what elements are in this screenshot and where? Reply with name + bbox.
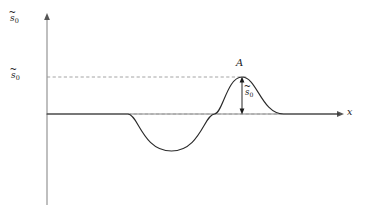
y-axis-arrowhead <box>44 13 50 20</box>
point-a-label: A <box>236 58 243 68</box>
y-axis-label-subscript: 0 <box>15 17 19 25</box>
figure-canvas: ~ s 0 ~ s 0 ~ s 0 A x <box>0 0 376 216</box>
y-axis-tick-label-base: s <box>11 71 16 80</box>
amplitude-label: ~ s 0 <box>245 88 253 98</box>
amplitude-label-subscript: 0 <box>249 91 253 98</box>
amplitude-label-base: s <box>245 88 249 97</box>
diagram-svg <box>0 0 376 216</box>
x-axis-label: x <box>347 107 352 117</box>
y-axis-label: ~ s 0 <box>10 14 19 24</box>
y-axis-tick-label: ~ s 0 <box>11 71 20 81</box>
y-axis-label-base: s <box>10 14 15 23</box>
y-axis-tick-label-subscript: 0 <box>16 74 20 82</box>
